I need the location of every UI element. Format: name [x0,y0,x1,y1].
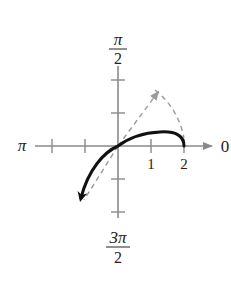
dashed-path [118,92,158,146]
polar-diagram: π 2 π 0 1 2 3π 2 [0,0,231,297]
tick-label-2: 2 [180,156,188,172]
tick-label-1: 1 [147,156,155,172]
solid-curve [81,132,184,198]
label-bottom-numerator: 3π [108,228,127,247]
label-top-denominator: 2 [114,50,122,67]
label-3pi-over-2: 3π 2 [106,228,130,266]
label-zero: 0 [221,137,230,156]
label-bottom-denominator: 2 [114,249,122,266]
label-pi: π [18,136,27,155]
label-top-numerator: π [114,30,123,49]
polar-graph-svg: π 2 π 0 1 2 3π 2 [0,0,231,297]
label-pi-over-2: π 2 [109,30,127,67]
